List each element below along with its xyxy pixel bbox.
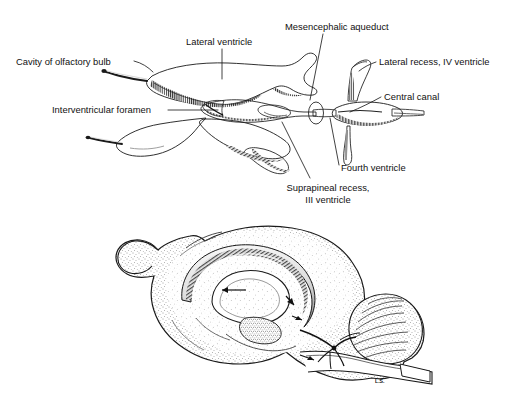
anatomical-figure: Cavity of olfactory bulb Lateral ventric… bbox=[0, 0, 530, 409]
olfactory-bulb-cavity-tip-upper bbox=[101, 69, 106, 73]
artist-signature: L.S. bbox=[375, 378, 385, 384]
label-fourth-ventricle: Fourth ventricle bbox=[341, 162, 406, 173]
label-lateral-recess-iv-ventricle: Lateral recess, IV ventricle bbox=[379, 56, 489, 67]
olfactory-bulb-cavity-tip-lower bbox=[86, 136, 91, 139]
label-interventricular-foramen: Interventricular foramen bbox=[52, 104, 151, 115]
label-suprapineal-recess-line1: Suprapineal recess, bbox=[287, 182, 370, 193]
label-central-canal: Central canal bbox=[384, 91, 439, 102]
cerebellum bbox=[349, 294, 422, 364]
label-suprapineal-recess-line2: III ventricle bbox=[305, 194, 350, 205]
figure-canvas: Cavity of olfactory bulb Lateral ventric… bbox=[0, 0, 530, 409]
plexus-node bbox=[332, 346, 337, 351]
label-lateral-ventricle: Lateral ventricle bbox=[186, 36, 252, 47]
label-cavity-of-olfactory-bulb: Cavity of olfactory bulb bbox=[16, 56, 111, 67]
label-mesencephalic-aqueduct: Mesencephalic aqueduct bbox=[285, 21, 389, 32]
